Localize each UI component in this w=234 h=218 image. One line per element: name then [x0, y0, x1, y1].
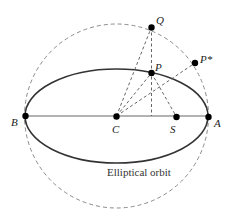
point-Pstar [192, 60, 198, 66]
point-B [22, 113, 28, 119]
label-S: S [170, 123, 176, 135]
caption-elliptical-orbit: Elliptical orbit [107, 166, 171, 178]
point-S [173, 114, 179, 120]
point-A [205, 114, 211, 120]
label-P: P [154, 61, 162, 73]
label-Pstar: P* [199, 53, 213, 65]
point-P [148, 70, 154, 76]
orbit-diagram: Q P P* B C S A Elliptical orbit [0, 0, 234, 218]
label-A: A [213, 117, 221, 129]
point-Q [148, 24, 154, 30]
point-C [113, 113, 119, 119]
diagram-canvas: Q P P* B C S A Elliptical orbit [0, 0, 234, 218]
line-C-P [117, 73, 152, 116]
label-C: C [112, 123, 120, 135]
label-B: B [11, 116, 18, 128]
label-Q: Q [156, 14, 164, 26]
